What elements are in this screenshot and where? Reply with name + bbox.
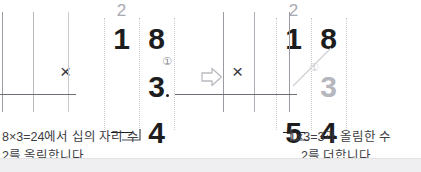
horizontal-rule-step-1 <box>0 94 76 95</box>
caption-line-1-step-1: 8×3=24에서 십의 자리 수 <box>2 130 139 144</box>
multiplicand-ones-digit-step-2: 8 <box>311 24 346 54</box>
multiplicand-tens-digit-step-2: 1 <box>276 24 311 54</box>
multiplier-ones-digit-step-2: 3 <box>311 72 346 102</box>
vertical-algorithm-grid-step-1: 2 1 8 3 4 <box>104 18 176 130</box>
column-separator-middle-step-1 <box>33 12 34 112</box>
column-rail-right <box>174 18 175 130</box>
column-separator-right-step-2 <box>289 12 290 112</box>
decimal-dot-mark-step-1 <box>166 94 169 97</box>
column-separator-right-step-1 <box>68 12 69 112</box>
multiplication-sign-step-2: × <box>232 62 243 81</box>
column-separator-left-step-1 <box>2 12 3 112</box>
step-1-panel: × 2 1 8 3 4 ① 8×3=24에서 십의 자리 수 2를 올림합니다. <box>0 0 200 172</box>
step-marker-icon-step-2: ① <box>309 62 319 73</box>
caption-line-1-step-2: 1×3=3과 올림한 수 <box>289 130 391 144</box>
column-separator-left-step-2 <box>223 12 224 112</box>
carry-digit-step-1: 2 <box>104 2 139 19</box>
step-2-panel: × 2 1 8 3 5 4 ① 1×3=3과 올림한 수 2를 더합니다. <box>221 0 421 172</box>
worked-example-figure: × 2 1 8 3 4 ① 8×3=24에서 십의 자리 수 2를 올림합니다. <box>0 0 421 172</box>
step-marker-icon-step-1: ① <box>162 56 172 67</box>
column-separator-middle-step-2 <box>254 12 255 112</box>
multiplier-ones-digit-step-1: 3 <box>139 72 174 102</box>
carry-digit-step-2: 2 <box>276 2 311 19</box>
multiplicand-ones-digit-step-1: 8 <box>139 24 174 54</box>
multiplicand-tens-digit-step-1: 1 <box>104 24 139 54</box>
vertical-algorithm-grid-step-2: 2 1 8 3 5 4 <box>276 18 348 130</box>
column-rail-right <box>346 18 347 130</box>
horizontal-rule-step-2 <box>175 94 297 95</box>
multiplication-sign-step-1: × <box>60 62 71 81</box>
page-bottom-band <box>0 158 421 172</box>
